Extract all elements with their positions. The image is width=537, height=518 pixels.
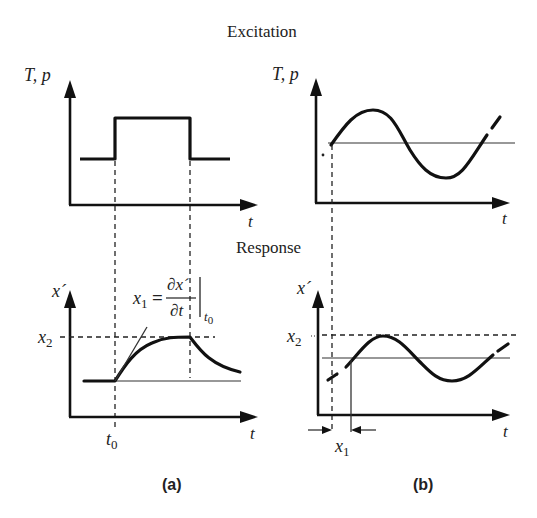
t0-label: t0: [106, 429, 118, 452]
panel-b-response-x-label: t: [503, 422, 509, 441]
excitation-response-diagram: Excitation Response T, p t T, p t x´ t: [0, 0, 537, 518]
y-axis-arrow-icon: [310, 78, 322, 96]
y-axis-arrow-icon: [64, 80, 76, 98]
formula-lhs: x1: [132, 288, 148, 311]
panel-a-excitation-x-label: t: [248, 212, 254, 231]
panel-a-caption: (a): [162, 476, 182, 493]
x2-amplitude-label: x2: [286, 326, 302, 349]
step-pulse-signal: [80, 118, 230, 159]
x-axis-arrow-icon: [240, 411, 258, 423]
sinusoid-excitation-signal: [331, 110, 487, 178]
panel-b-excitation-y-label: T, p: [272, 64, 299, 84]
panel-b-excitation-x-label: t: [502, 209, 508, 228]
panel-a-excitation-y-label: T, p: [24, 65, 51, 85]
initial-slope-tangent-line: [115, 327, 147, 381]
x2-level-label: x2: [37, 327, 53, 350]
x-axis-arrow-icon: [492, 409, 510, 421]
formula-denominator: ∂t: [170, 301, 184, 320]
lag-arrow-right-pointing-icon: [322, 426, 332, 434]
x1-phase-lag-label: x1: [334, 436, 350, 459]
panel-a-response-plot: x´ t x2 t0 x1 = ∂x´ ∂t t0: [37, 275, 258, 452]
formula-numerator: ∂x´: [167, 275, 189, 294]
first-order-response-curve: [84, 337, 240, 381]
start-dot: [322, 154, 325, 157]
sinusoid-continuation-dash: [492, 117, 500, 128]
x-axis-arrow-icon: [492, 197, 510, 209]
panel-b-response-plot: x´ t x2 x1: [286, 278, 516, 459]
y-axis-arrow-icon: [312, 290, 324, 308]
panel-b-caption: (b): [413, 476, 433, 493]
slope-formula: x1 = ∂x´ ∂t t0: [132, 275, 214, 326]
lag-arrow-left-pointing-icon: [351, 426, 361, 434]
panel-a-response-x-label: t: [250, 424, 256, 443]
response-continuation-dash: [498, 344, 508, 351]
panel-a-response-y-label: x´: [51, 281, 67, 301]
excitation-heading: Excitation: [227, 22, 297, 41]
formula-equals: =: [152, 287, 163, 308]
panel-b-excitation-plot: T, p t: [272, 64, 515, 432]
panel-b-response-y-label: x´: [296, 278, 312, 298]
panel-a-excitation-plot: T, p t: [24, 65, 258, 430]
formula-eval-subscript: t0: [204, 309, 214, 326]
x-axis-arrow-icon: [240, 199, 258, 211]
response-heading: Response: [236, 238, 301, 257]
